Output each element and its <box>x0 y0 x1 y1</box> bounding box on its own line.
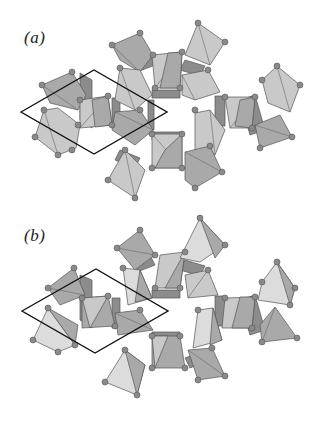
atoms <box>32 20 303 201</box>
crystal-structure-a <box>0 0 319 210</box>
panel-b: (b) <box>0 200 319 421</box>
crystal-structure-b <box>0 200 319 421</box>
panel-a: (a) <box>0 0 319 210</box>
atoms <box>30 215 300 398</box>
